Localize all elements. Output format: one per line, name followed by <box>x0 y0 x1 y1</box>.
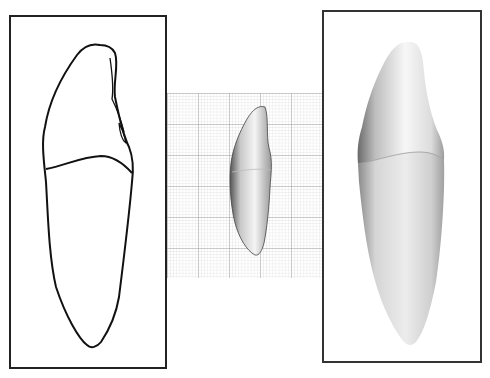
outline-drawing-panel: Tooth outline drawing <box>9 15 167 369</box>
crown <box>358 42 445 164</box>
tooth-contour <box>43 44 133 347</box>
graph-paper-grid <box>167 93 326 278</box>
cej-line <box>46 156 132 173</box>
tooth-shaded-illustration <box>324 12 480 361</box>
graph-paper-photo-panel: Tooth photograph on graph paper <box>167 93 326 278</box>
tooth-outline-drawing <box>11 17 165 367</box>
shaded-illustration-panel: Shaded tooth illustration <box>322 10 482 363</box>
root <box>358 152 444 345</box>
